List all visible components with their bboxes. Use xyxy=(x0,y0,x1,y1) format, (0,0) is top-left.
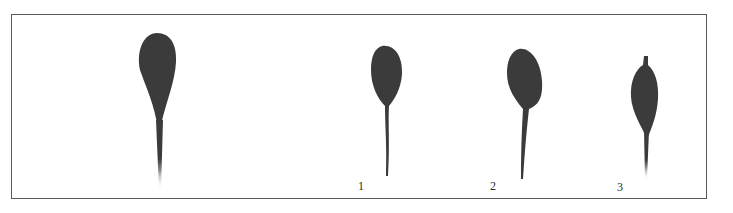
specimen-reference xyxy=(130,30,190,200)
specimen-2 xyxy=(505,47,550,182)
label-2: 2 xyxy=(490,180,496,192)
label-1: 1 xyxy=(358,180,364,192)
label-3: 3 xyxy=(617,181,623,193)
figure-frame xyxy=(11,14,707,199)
specimen-3 xyxy=(628,55,668,185)
specimen-1 xyxy=(368,44,408,179)
